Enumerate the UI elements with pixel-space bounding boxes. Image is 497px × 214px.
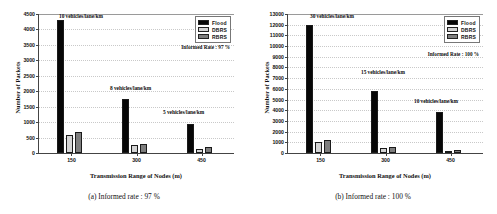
y-tick-label: 1500: [23, 104, 35, 110]
legend-swatch-dbrs: [447, 27, 458, 32]
x-tick-mark: [386, 153, 387, 156]
bar-flood-150: [57, 20, 65, 153]
y-tick-label: 3000: [272, 118, 284, 124]
informed-rate-annotation: Informed Rate : 97 %: [181, 44, 230, 50]
bar-annotation: 10 vehicles/lane/km: [59, 13, 103, 19]
panel-caption: (b) Informed rate : 100 %: [249, 192, 497, 201]
bar-group: [39, 14, 104, 153]
legend-swatch-flood: [198, 20, 209, 25]
legend-label-rbrs: RBRS: [461, 34, 476, 40]
bar-flood-450: [187, 124, 195, 153]
y-axis-title: Number of Packets: [14, 43, 21, 133]
bar-flood-300: [371, 91, 379, 153]
legend-item-flood: Flood: [447, 19, 476, 26]
y-tick-label: 12000: [270, 22, 284, 28]
x-tick-label: 150: [316, 157, 325, 163]
bar-flood-300: [122, 99, 130, 153]
y-tick-label: 1000: [272, 139, 284, 145]
y-tick-label: 2000: [23, 88, 35, 94]
x-tick-label: 300: [132, 157, 141, 163]
bar-dbrs-150: [315, 142, 323, 153]
legend-swatch-rbrs: [447, 34, 458, 39]
legend-label-flood: Flood: [212, 20, 227, 26]
y-tick-label: 7000: [272, 75, 284, 81]
bar-rbrs-450: [205, 147, 213, 153]
panel-caption: (a) Informed rate : 97 %: [0, 192, 248, 201]
y-tick-label: 0: [32, 150, 35, 156]
x-axis-title: Transmission Range of Nodes (m): [38, 172, 234, 179]
bar-annotation: 30 vehicles/lane/km: [310, 13, 354, 19]
plot-area: 0100020003000400050006000700080009000100…: [287, 14, 483, 154]
x-tick-label: 450: [197, 157, 206, 163]
bar-annotation: 8 vehicles/lane/km: [110, 85, 151, 91]
chart-panel-b: Number of Packets01000200030004000500060…: [249, 0, 497, 214]
bar-annotation: 15 vehicles/lane/km: [361, 69, 405, 75]
figure-two-bar-charts: Number of Packets05001000150020002500300…: [0, 0, 497, 214]
y-tick-label: 5000: [272, 97, 284, 103]
x-tick-mark: [320, 153, 321, 156]
bar-flood-450: [436, 112, 444, 153]
legend-label-rbrs: RBRS: [212, 34, 227, 40]
x-tick-label: 300: [381, 157, 390, 163]
y-tick-label: 0: [281, 150, 284, 156]
bar-rbrs-150: [75, 132, 83, 153]
y-tick-mark: [36, 153, 39, 154]
legend-swatch-dbrs: [198, 27, 209, 32]
y-tick-label: 4000: [272, 107, 284, 113]
chart-panel-a: Number of Packets05001000150020002500300…: [0, 0, 248, 214]
bar-rbrs-300: [389, 147, 397, 153]
y-tick-label: 2500: [23, 73, 35, 79]
bar-dbrs-300: [131, 145, 139, 153]
informed-rate-annotation: Informed Rate : 100 %: [428, 51, 479, 57]
legend-item-rbrs: RBRS: [447, 33, 476, 40]
legend-swatch-rbrs: [198, 34, 209, 39]
legend-label-flood: Flood: [461, 20, 476, 26]
y-tick-label: 2000: [272, 129, 284, 135]
bar-rbrs-150: [324, 140, 332, 153]
plot-area: 0500100015002000250030003500400045001503…: [38, 14, 234, 154]
x-tick-label: 450: [446, 157, 455, 163]
legend-item-dbrs: DBRS: [447, 26, 476, 33]
chart-legend: FloodDBRSRBRS: [444, 16, 480, 43]
legend-label-dbrs: DBRS: [212, 27, 227, 33]
chart-legend: FloodDBRSRBRS: [195, 16, 231, 43]
bar-group: [353, 14, 418, 153]
x-tick-label: 150: [67, 157, 76, 163]
bar-group: [104, 14, 169, 153]
bar-rbrs-300: [140, 144, 148, 153]
x-axis-title: Transmission Range of Nodes (m): [287, 172, 483, 179]
bar-rbrs-450: [454, 150, 462, 153]
legend-item-rbrs: RBRS: [198, 33, 227, 40]
y-tick-label: 3500: [23, 42, 35, 48]
bar-group: [288, 14, 353, 153]
legend-swatch-flood: [447, 20, 458, 25]
bar-flood-150: [306, 25, 314, 153]
y-tick-label: 4000: [23, 26, 35, 32]
bar-dbrs-150: [66, 135, 74, 153]
y-tick-label: 500: [26, 135, 35, 141]
legend-label-dbrs: DBRS: [461, 27, 476, 33]
legend-item-dbrs: DBRS: [198, 26, 227, 33]
y-tick-label: 4500: [23, 11, 35, 17]
y-tick-label: 1000: [23, 119, 35, 125]
y-tick-label: 8000: [272, 64, 284, 70]
y-tick-label: 11000: [270, 32, 284, 38]
legend-item-flood: Flood: [198, 19, 227, 26]
x-tick-mark: [137, 153, 138, 156]
y-tick-label: 9000: [272, 54, 284, 60]
bar-annotation: 5 vehicles/lane/km: [163, 109, 204, 115]
y-tick-mark: [285, 153, 288, 154]
bar-annotation: 10 vehicles/lane/km: [414, 98, 458, 104]
y-tick-label: 3000: [23, 57, 35, 63]
y-tick-label: 10000: [270, 43, 284, 49]
y-tick-label: 6000: [272, 86, 284, 92]
x-tick-mark: [71, 153, 72, 156]
y-tick-label: 13000: [270, 11, 284, 17]
y-axis-title: Number of Packets: [263, 43, 270, 133]
x-tick-mark: [451, 153, 452, 156]
x-tick-mark: [202, 153, 203, 156]
